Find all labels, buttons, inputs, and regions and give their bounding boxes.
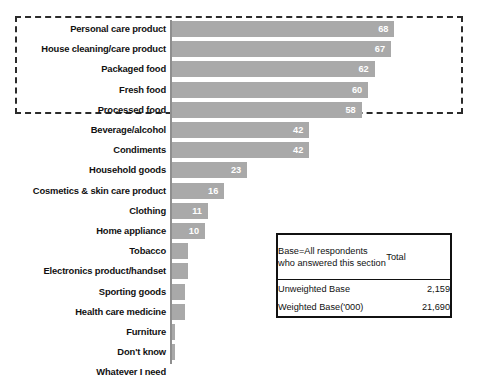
bar-row: Cosmetics & skin care product16 — [0, 183, 480, 199]
bar-row: Household goods23 — [0, 162, 480, 178]
bar — [172, 21, 394, 37]
base-table-row: Unweighted Base 2,159 — [278, 279, 450, 298]
bar-value-label: 68 — [362, 21, 388, 37]
weighted-base-value: 21,690 — [386, 298, 450, 316]
bar-category-label: Don't know — [117, 344, 166, 360]
bar-value-label: 42 — [277, 142, 303, 158]
bar-category-label: Sporting goods — [99, 284, 166, 300]
bar-category-label: Clothing — [129, 203, 166, 219]
bar-category-label: Tobacco — [129, 243, 166, 259]
bar-value-label: 42 — [277, 122, 303, 138]
bar-row: Don't know — [0, 344, 480, 360]
bar-value-label: 23 — [215, 162, 241, 178]
bar — [172, 324, 175, 340]
bar-category-label: Condiments — [113, 142, 166, 158]
bar-value-label: 62 — [343, 61, 369, 77]
bar-category-label: Cosmetics & skin care product — [33, 183, 166, 199]
base-table-header-total: Total — [386, 235, 450, 279]
weighted-base-label: Weighted Base('000) — [278, 298, 386, 316]
bar-value-label: 4 — [173, 284, 199, 300]
bar — [172, 344, 175, 360]
bar-row: Personal care product68 — [0, 21, 480, 37]
bar-value-label: 5 — [173, 263, 199, 279]
bar-category-label: Electronics product/handset — [43, 263, 166, 279]
bar-row: Condiments42 — [0, 142, 480, 158]
bar-value-label: 4 — [173, 304, 199, 320]
bar-category-label: Home appliance — [96, 223, 166, 239]
bar-value-label: 11 — [176, 203, 202, 219]
base-table-row: Weighted Base('000) 21,690 — [278, 298, 450, 316]
base-table: Base=All respondents who answered this s… — [276, 233, 452, 318]
bar-value-label: 10 — [173, 223, 199, 239]
bar-row: Clothing11 — [0, 203, 480, 219]
bar-row: Fresh food60 — [0, 82, 480, 98]
bar-row: Processed food58 — [0, 102, 480, 118]
base-table-header-label: Base=All respondents who answered this s… — [278, 235, 386, 279]
bar-category-label: Fresh food — [119, 82, 166, 98]
bar-value-label: 58 — [330, 102, 356, 118]
bar-category-label: Packaged food — [101, 61, 166, 77]
unweighted-base-label: Unweighted Base — [278, 279, 386, 298]
unweighted-base-value: 2,159 — [386, 279, 450, 298]
bar-value-label: 16 — [192, 183, 218, 199]
bar-category-label: Furniture — [126, 324, 166, 340]
bar-value-label: 60 — [336, 82, 362, 98]
bar-chart: Personal care product68House cleaning/ca… — [0, 0, 480, 381]
bar-row: House cleaning/care product67 — [0, 41, 480, 57]
bar-row: Packaged food62 — [0, 61, 480, 77]
bar-category-label: Household goods — [89, 162, 166, 178]
base-table-header-row: Base=All respondents who answered this s… — [278, 235, 450, 279]
bar-category-label: Whatever I need — [96, 364, 166, 380]
bar-category-label: Processed food — [98, 102, 166, 118]
bar-category-label: Personal care product — [70, 21, 166, 37]
bar-row: Beverage/alcohol42 — [0, 122, 480, 138]
bar-category-label: Beverage/alcohol — [91, 122, 166, 138]
bar-row: Whatever I need — [0, 364, 480, 380]
bar-value-label: 5 — [173, 243, 199, 259]
bar-category-label: House cleaning/care product — [41, 41, 166, 57]
bar-category-label: Health care medicine — [75, 304, 166, 320]
bar-row: Furniture — [0, 324, 480, 340]
bar-value-label: 67 — [359, 41, 385, 57]
